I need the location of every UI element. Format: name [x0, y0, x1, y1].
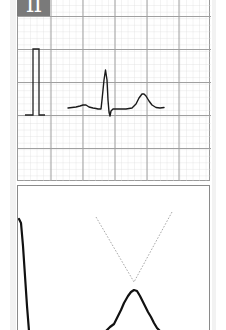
t-wave-detail-chart [18, 186, 210, 330]
decay-curve [19, 219, 29, 330]
t-wave-magnified [106, 290, 160, 330]
tangent-lines [96, 212, 172, 282]
ecg-grid-and-trace [18, 0, 211, 181]
lead-label: II [17, 0, 50, 16]
ecg-strip-panel [17, 0, 210, 181]
t-wave-detail-panel [17, 185, 210, 330]
